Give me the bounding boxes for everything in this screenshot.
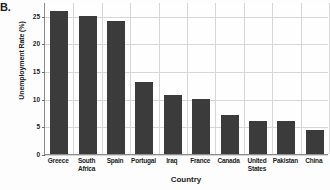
y-tick-label: 0: [0, 152, 40, 159]
gridline-vertical: [215, 3, 216, 154]
gridline-vertical: [301, 3, 302, 154]
y-tick-label: 10: [0, 97, 40, 104]
gridline-vertical: [272, 3, 273, 154]
x-axis-title: Country: [44, 175, 328, 184]
bar: [107, 21, 125, 154]
gridline-vertical: [244, 3, 245, 154]
gridline-vertical: [159, 3, 160, 154]
gridline-vertical: [130, 3, 131, 154]
bar: [192, 99, 210, 154]
x-tick-label: France: [186, 157, 214, 165]
y-tick-mark: [42, 100, 45, 101]
y-tick-mark: [42, 44, 45, 45]
gridline-horizontal: [45, 155, 328, 156]
bar: [277, 121, 295, 154]
y-tick-label: 20: [0, 41, 40, 48]
bar: [221, 115, 239, 154]
x-tick-label: Greece: [44, 157, 72, 165]
bar: [79, 16, 97, 154]
x-tick-label: Canada: [214, 157, 242, 165]
bar: [164, 95, 182, 154]
gridline-vertical: [73, 3, 74, 154]
gridline-vertical: [187, 3, 188, 154]
bar: [50, 11, 68, 154]
y-tick-mark: [42, 127, 45, 128]
x-tick-label: South Africa: [72, 157, 100, 172]
gridline-vertical: [102, 3, 103, 154]
y-tick-label: 15: [0, 69, 40, 76]
panel-label: B.: [0, 2, 11, 13]
bar: [306, 130, 324, 154]
x-tick-label: United States: [243, 157, 271, 172]
y-tick-label: 5: [0, 124, 40, 131]
plot-area: [44, 3, 328, 155]
y-axis-title: Unemployment Rate (%): [18, 11, 25, 111]
bar: [249, 121, 267, 154]
x-tick-label: Iraq: [158, 157, 186, 165]
x-tick-label: Pakistan: [271, 157, 299, 165]
bar: [135, 82, 153, 154]
x-tick-label: Portugal: [129, 157, 157, 165]
y-tick-mark: [42, 72, 45, 73]
y-tick-label: 25: [0, 14, 40, 21]
x-tick-label: China: [300, 157, 328, 165]
y-tick-mark: [42, 155, 45, 156]
y-tick-mark: [42, 17, 45, 18]
chart-figure: B. Unemployment Rate (%) 0510152025 Gree…: [0, 0, 330, 190]
x-tick-label: Spain: [101, 157, 129, 165]
